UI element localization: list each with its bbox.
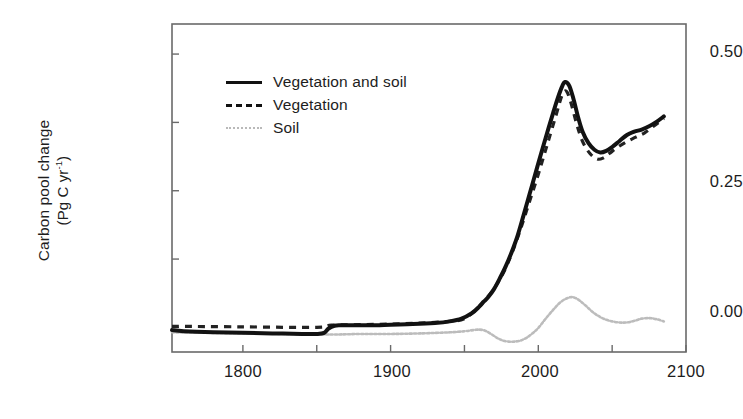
legend-label-vegetation: Vegetation bbox=[273, 96, 348, 114]
x-axis-ticks bbox=[243, 345, 686, 352]
legend-label-vegetation-and-soil: Vegetation and soil bbox=[273, 73, 407, 91]
legend: Vegetation and soil Vegetation Soil bbox=[226, 70, 407, 139]
series-line-soil bbox=[172, 297, 664, 342]
plot-area bbox=[0, 0, 743, 419]
legend-item-soil: Soil bbox=[226, 116, 407, 139]
legend-item-vegetation-and-soil: Vegetation and soil bbox=[226, 70, 407, 93]
legend-item-vegetation: Vegetation bbox=[226, 93, 407, 116]
figure-carbon-pool-change: Carbon pool change (Pg C yr-1) 0.50 0.25… bbox=[0, 0, 743, 419]
legend-swatch-dotted-line-icon bbox=[226, 121, 262, 135]
series-soil bbox=[172, 297, 664, 342]
legend-swatch-solid-line-icon bbox=[226, 75, 262, 89]
y-axis-ticks bbox=[172, 54, 179, 327]
legend-label-soil: Soil bbox=[273, 119, 299, 137]
legend-swatch-dashed-line-icon bbox=[226, 98, 262, 112]
